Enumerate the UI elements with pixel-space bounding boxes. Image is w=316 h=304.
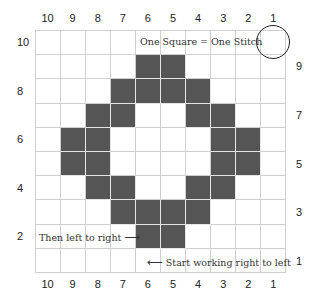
bottom-column-label: 4: [186, 278, 211, 290]
stitch-cell-empty: [161, 152, 186, 176]
stitch-cell-empty: [36, 128, 61, 152]
arrow-right-icon: ⟶: [124, 231, 140, 244]
top-column-label: 3: [211, 12, 236, 24]
bottom-column-label: 10: [35, 278, 60, 290]
stitch-cell-filled: [161, 79, 186, 103]
stitch-cell-empty: [261, 225, 286, 249]
stitch-cell-empty: [136, 152, 161, 176]
stitch-cell-filled: [186, 176, 211, 200]
stitch-cell-empty: [236, 79, 261, 103]
stitch-cell-empty: [36, 79, 61, 103]
stitch-cell-empty: [236, 225, 261, 249]
stitch-cell-empty: [186, 128, 211, 152]
stitch-cell-empty: [86, 55, 111, 79]
stitch-cell-filled: [186, 104, 211, 128]
stitch-cell-filled: [186, 79, 211, 103]
stitch-cell-empty: [211, 55, 236, 79]
left-to-right-note: Then left to right ⟶: [39, 231, 140, 244]
stitch-cell-filled: [161, 55, 186, 79]
stitch-cell-empty: [261, 200, 286, 224]
stitch-cell-empty: [136, 176, 161, 200]
stitch-cell-filled: [111, 104, 136, 128]
bottom-column-label: 1: [261, 278, 286, 290]
stitch-cell-filled: [211, 152, 236, 176]
stitch-cell-filled: [86, 128, 111, 152]
arrow-left-icon: ⟵: [147, 256, 163, 269]
stitch-cell-empty: [111, 31, 136, 55]
stitch-cell-empty: [186, 225, 211, 249]
stitch-cell-filled: [86, 176, 111, 200]
left-to-right-label: Then left to right: [39, 232, 121, 243]
right-row-label: 3: [296, 206, 302, 218]
bottom-column-label: 7: [110, 278, 135, 290]
left-row-label: 4: [17, 182, 23, 194]
stitch-cell-filled: [211, 128, 236, 152]
stitch-cell-empty: [61, 176, 86, 200]
legend-text: One Square = One Stitch: [140, 36, 262, 47]
stitch-cell-empty: [236, 104, 261, 128]
stitch-cell-empty: [161, 176, 186, 200]
right-row-label: 9: [296, 60, 302, 72]
stitch-cell-empty: [211, 225, 236, 249]
stitch-cell-empty: [261, 128, 286, 152]
stitch-cell-filled: [136, 55, 161, 79]
stitch-cell-filled: [211, 176, 236, 200]
stitch-cell-empty: [261, 176, 286, 200]
stitch-cell-empty: [111, 249, 136, 273]
top-column-label: 9: [60, 12, 85, 24]
stitch-cell-empty: [61, 200, 86, 224]
stitch-cell-empty: [61, 249, 86, 273]
top-column-label: 8: [85, 12, 110, 24]
top-column-label: 1: [261, 12, 286, 24]
left-row-label: 10: [17, 36, 29, 48]
stitch-cell-empty: [111, 55, 136, 79]
stitch-cell-empty: [111, 152, 136, 176]
stitch-cell-filled: [86, 152, 111, 176]
right-row-label: 7: [296, 109, 302, 121]
stitch-cell-filled: [236, 152, 261, 176]
stitch-cell-empty: [236, 176, 261, 200]
stitch-cell-empty: [36, 200, 61, 224]
stitch-cell-filled: [136, 200, 161, 224]
stitch-cell-empty: [261, 104, 286, 128]
stitch-cell-empty: [36, 104, 61, 128]
stitch-cell-empty: [61, 104, 86, 128]
right-to-left-label: Start working right to left: [166, 257, 291, 268]
stitch-cell-empty: [111, 128, 136, 152]
top-column-label: 10: [35, 12, 60, 24]
stitch-cell-filled: [161, 225, 186, 249]
stitch-cell-filled: [111, 176, 136, 200]
stitch-cell-filled: [111, 79, 136, 103]
left-row-label: 2: [17, 230, 23, 242]
left-row-label: 6: [17, 133, 23, 145]
stitch-cell-empty: [161, 128, 186, 152]
bottom-column-label: 3: [211, 278, 236, 290]
stitch-cell-empty: [261, 152, 286, 176]
stitch-cell-empty: [211, 79, 236, 103]
stitch-cell-filled: [61, 152, 86, 176]
stitch-cell-filled: [236, 128, 261, 152]
top-column-label: 2: [236, 12, 261, 24]
stitch-cell-empty: [236, 55, 261, 79]
stitch-cell-empty: [36, 152, 61, 176]
right-row-label: 1: [296, 255, 302, 267]
top-column-label: 6: [135, 12, 160, 24]
stitch-cell-empty: [236, 200, 261, 224]
bottom-column-label: 9: [60, 278, 85, 290]
stitch-cell-filled: [86, 104, 111, 128]
bottom-column-label: 8: [85, 278, 110, 290]
stitch-cell-filled: [111, 200, 136, 224]
stitch-cell-filled: [211, 104, 236, 128]
stitch-cell-empty: [261, 79, 286, 103]
top-column-label: 4: [186, 12, 211, 24]
stitch-cell-filled: [161, 200, 186, 224]
stitch-cell-empty: [86, 200, 111, 224]
start-marker-circle-icon: [256, 25, 290, 59]
bottom-column-label: 5: [161, 278, 186, 290]
stitch-cell-empty: [86, 31, 111, 55]
stitch-cell-empty: [61, 55, 86, 79]
stitch-cell-empty: [86, 249, 111, 273]
top-column-label: 5: [161, 12, 186, 24]
stitch-cell-empty: [61, 79, 86, 103]
stitch-cell-filled: [186, 200, 211, 224]
